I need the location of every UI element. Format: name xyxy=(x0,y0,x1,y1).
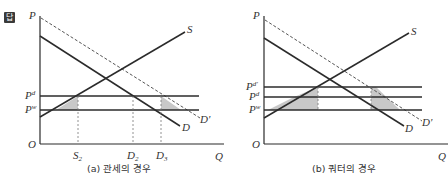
panel-a-caption: (a) 관세의 경우 xyxy=(87,163,151,174)
origin-label: O xyxy=(252,138,260,150)
supply-label: S xyxy=(187,23,193,35)
deadweight-loss-consumption xyxy=(161,96,181,110)
panel-b-quota: P O Q S D D' Pd' Pd Pw (b) 쿼터의 경우 xyxy=(224,0,448,176)
panel-a-tariff: P O Q S D D' Pd Pw S2 D2 D3 (a) 관세의 경우 xyxy=(0,0,224,176)
pw-label: Pw xyxy=(24,103,37,115)
origin-label: O xyxy=(28,138,36,150)
demand-shifted-label: D' xyxy=(199,113,211,125)
deadweight-loss-production xyxy=(56,96,78,110)
pw-label: Pw xyxy=(248,103,261,115)
y-axis-label: P xyxy=(252,9,260,21)
pd-label: Pd xyxy=(248,90,260,102)
supply-label: S xyxy=(411,25,417,37)
pd-label: Pd xyxy=(24,89,36,101)
demand-shifted-label: D' xyxy=(421,116,433,128)
panel-b-caption: (b) 쿼터의 경우 xyxy=(312,163,376,174)
x-axis-label: Q xyxy=(215,150,223,162)
d3-label: D3 xyxy=(155,149,168,163)
y-axis-label: P xyxy=(28,9,36,21)
demand-curve xyxy=(264,38,404,126)
demand-label: D xyxy=(181,121,190,133)
s2-label: S2 xyxy=(73,149,83,163)
x-axis-label: Q xyxy=(438,150,446,162)
d2-label: D2 xyxy=(126,149,139,163)
demand-label: D xyxy=(404,122,413,134)
demand-curve xyxy=(40,36,180,126)
